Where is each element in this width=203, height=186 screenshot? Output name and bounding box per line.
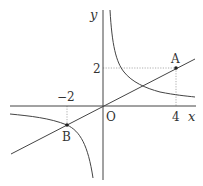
origin-label: O — [106, 110, 116, 124]
point-a-label: A — [170, 52, 180, 66]
point-b — [65, 123, 69, 127]
coordinate-plane: y x O 2 4 −2 A B — [0, 0, 203, 186]
y-axis-label: y — [89, 7, 98, 22]
point-a — [174, 66, 178, 70]
tick-x-4: 4 — [172, 110, 180, 124]
diagram-canvas: y x O 2 4 −2 A B — [0, 0, 203, 186]
tick-y-2: 2 — [93, 62, 101, 76]
hyperbola-left-branch — [10, 114, 93, 178]
hyperbola-right-branch — [110, 10, 195, 97]
x-axis-label: x — [188, 109, 196, 124]
tick-x-neg2: −2 — [57, 90, 75, 104]
point-b-label: B — [62, 130, 71, 144]
